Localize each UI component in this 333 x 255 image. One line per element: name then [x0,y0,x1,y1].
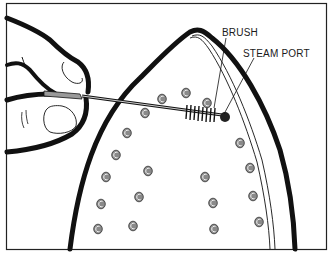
steam-port [249,191,258,201]
frame-border [7,4,327,250]
steam-port [141,108,150,118]
steam-port [102,172,111,182]
steam-port [246,163,255,173]
steam-port [97,199,106,209]
illustration-canvas [0,0,333,255]
brush-label: BRUSH [222,27,258,38]
steam-port-label: STEAM PORT [243,48,310,59]
steam-port [129,221,138,231]
steam-port [201,172,210,182]
steam-port [182,88,191,98]
steam-port [94,224,103,234]
steam-port [255,217,264,227]
steam-port [112,150,121,160]
steam-port [236,138,245,148]
steam-port [209,198,218,208]
steam-port [123,128,132,138]
steam-port [158,94,167,104]
steam-port [210,224,219,234]
iron-cleaning-illustration: BRUSH STEAM PORT [0,0,333,255]
steam-port-cleaned [220,112,230,122]
steam-port [135,192,144,202]
steam-port [203,98,212,108]
steam-port [144,166,153,176]
